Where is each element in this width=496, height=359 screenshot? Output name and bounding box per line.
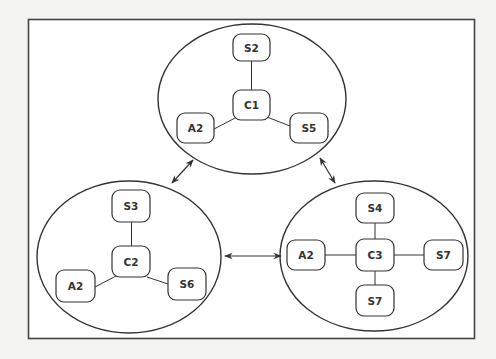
node-c2[interactable]: C2 (112, 246, 150, 277)
node-c1-label: C1 (244, 99, 259, 111)
node-c1[interactable]: C1 (233, 90, 270, 120)
node-c3[interactable]: C3 (356, 239, 394, 271)
node-s5[interactable]: S5 (290, 113, 328, 143)
node-s2-label: S2 (244, 42, 259, 54)
node-a2-cluster-3-label: A2 (298, 249, 313, 261)
node-a2-cluster-2[interactable]: A2 (56, 270, 95, 302)
node-c2-label: C2 (123, 256, 138, 268)
node-s3-label: S3 (124, 200, 139, 212)
node-a2-cluster-1[interactable]: A2 (177, 113, 214, 143)
node-s4[interactable]: S4 (356, 193, 394, 223)
node-s6-label: S6 (180, 278, 195, 290)
node-s4-label: S4 (368, 202, 383, 214)
cluster-diagram: S2 C1 A2 S5 S3 (0, 0, 496, 359)
node-a2-cluster-2-label: A2 (68, 280, 83, 292)
node-s2[interactable]: S2 (233, 34, 270, 61)
node-s3[interactable]: S3 (112, 190, 150, 222)
node-s7-bottom-label: S7 (368, 295, 383, 307)
node-s6[interactable]: S6 (168, 268, 206, 300)
node-c3-label: C3 (367, 249, 382, 261)
diagram-stage: S2 C1 A2 S5 S3 (0, 0, 496, 359)
node-s7-right[interactable]: S7 (424, 240, 463, 270)
node-a2-cluster-3[interactable]: A2 (287, 240, 325, 270)
node-a2-cluster-1-label: A2 (188, 122, 203, 134)
node-s7-bottom[interactable]: S7 (356, 285, 394, 316)
node-s7-right-label: S7 (436, 249, 451, 261)
node-s5-label: S5 (302, 122, 317, 134)
